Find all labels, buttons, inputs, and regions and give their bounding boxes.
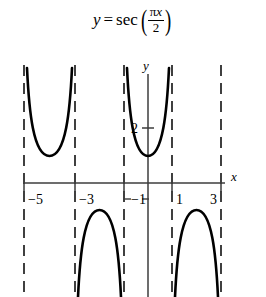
x-tick-label-1: 1 <box>176 192 183 207</box>
x-axis-label: x <box>230 169 237 184</box>
formula-numerator-variable: x <box>156 4 162 19</box>
formula-function-name: sec <box>116 10 138 29</box>
formula-lhs: y <box>93 10 101 29</box>
formula-equals: = <box>103 10 113 29</box>
x-axis-group <box>24 183 225 192</box>
y-tick-label-2: 2 <box>131 121 138 136</box>
formula-fraction: πx2 <box>148 5 164 34</box>
formula-title: y=sec(πx2) <box>0 6 266 36</box>
curve-upper-branch-left <box>27 68 72 156</box>
curve-lower-branch-left <box>78 210 121 297</box>
formula-fraction-denominator: 2 <box>148 21 164 35</box>
formula-fraction-numerator: πx <box>148 5 164 20</box>
formula-open-paren: ( <box>141 5 147 35</box>
asymptote-group <box>24 65 221 297</box>
graph-plot-area: −5 −3 −1 1 3 2 x y <box>0 52 266 297</box>
x-tick-label-minus3: −3 <box>79 192 94 207</box>
formula-close-paren: ) <box>165 5 171 35</box>
x-tick-label-minus1: −1 <box>131 192 146 207</box>
curve-lower-branch-right <box>175 210 218 297</box>
x-tick-label-3: 3 <box>210 192 217 207</box>
y-axis-group <box>142 74 154 297</box>
y-axis-label: y <box>141 58 149 73</box>
x-tick-label-minus5: −5 <box>28 192 43 207</box>
